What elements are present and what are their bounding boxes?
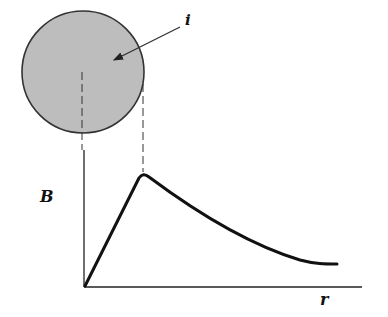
current-label: i xyxy=(185,11,191,29)
y-axis-label: B xyxy=(39,187,54,206)
x-axis-label: r xyxy=(320,290,330,309)
field-diagram: i B r xyxy=(0,0,388,317)
field-curve xyxy=(85,175,337,286)
wire-cross-section xyxy=(22,11,144,133)
